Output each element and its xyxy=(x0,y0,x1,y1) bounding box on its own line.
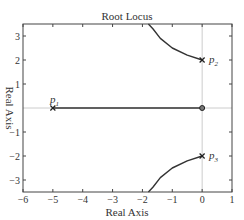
x-tick-label: −1 xyxy=(167,194,178,205)
chart-title: Root Locus xyxy=(101,10,152,22)
x-tick-label: 0 xyxy=(200,194,205,205)
pole-label-p2: p2 xyxy=(208,53,219,68)
axis-ticks: −6−5−4−3−2−101−3−2−1123 xyxy=(9,24,234,205)
locus-branches xyxy=(53,24,202,192)
branch-upper xyxy=(148,24,202,60)
y-tick-label: −2 xyxy=(9,151,20,162)
x-tick-label: −6 xyxy=(18,194,29,205)
x-tick-label: −2 xyxy=(137,194,148,205)
y-tick-label: 2 xyxy=(15,55,20,66)
root-locus-chart: Root Locus −6−5−4−3−2−101−3−2−1123 Real … xyxy=(0,0,244,220)
x-tick-label: −4 xyxy=(77,194,88,205)
y-tick-label: −3 xyxy=(9,175,20,186)
x-tick-label: −3 xyxy=(107,194,118,205)
y-tick-label: 3 xyxy=(15,31,20,42)
y-axis-label: Real Axis xyxy=(4,86,16,129)
x-axis-label: Real Axis xyxy=(105,206,148,218)
pole-label-p3: p3 xyxy=(208,149,219,164)
zero-marker xyxy=(200,106,205,111)
branch-lower xyxy=(148,156,202,192)
x-tick-label: −5 xyxy=(48,194,59,205)
x-tick-label: 1 xyxy=(230,194,235,205)
